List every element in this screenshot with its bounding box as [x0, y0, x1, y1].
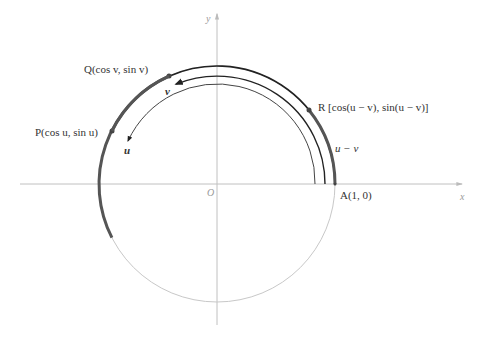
label-y-axis: y — [206, 14, 210, 24]
label-p: P(cos u, sin u) — [35, 127, 98, 138]
label-q: Q(cos v, sin v) — [84, 64, 148, 75]
label-origin: O — [207, 188, 214, 198]
label-r: R [cos(u − v), sin(u − v)] — [318, 102, 428, 113]
label-x-axis: x — [460, 192, 464, 202]
highlight-layer — [0, 0, 486, 343]
label-v: v — [165, 86, 170, 97]
label-a: A(1, 0) — [340, 190, 372, 201]
arc-q-to-p-highlight-corrected — [112, 76, 169, 131]
label-u: u — [124, 145, 130, 156]
label-u-minus-v: u − v — [335, 143, 358, 154]
